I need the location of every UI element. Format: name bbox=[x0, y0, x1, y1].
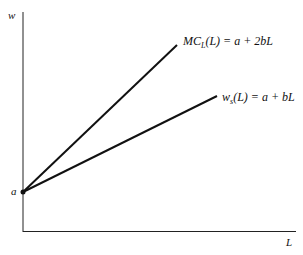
ws-line bbox=[23, 96, 217, 192]
mc-line bbox=[23, 45, 177, 192]
x-axis-label: L bbox=[285, 236, 292, 248]
intercept-point bbox=[21, 190, 26, 195]
intercept-label: a bbox=[11, 185, 17, 197]
mc-line-label: MCL(L) = a + 2bL bbox=[182, 34, 273, 50]
y-axis-label: w bbox=[8, 9, 16, 21]
ws-line-label: ws(L) = a + bL bbox=[222, 90, 295, 106]
chart: w L a MCL(L) = a + 2bL ws(L) = a + bL bbox=[0, 0, 303, 255]
